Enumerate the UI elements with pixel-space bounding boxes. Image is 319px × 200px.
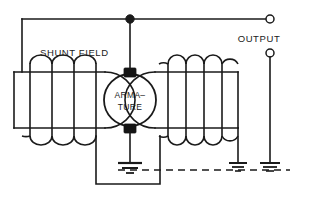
output-terminal-bottom[interactable] bbox=[266, 49, 274, 57]
series-coil-arc-top-0 bbox=[159, 63, 168, 64]
shunt-coil-cradle-arc bbox=[105, 72, 135, 128]
shunt-coil-arc-bottom-0 bbox=[22, 136, 30, 137]
series-coil-arc-top-1 bbox=[168, 55, 186, 64]
armature-circle bbox=[104, 74, 156, 126]
series-coil-arc-bottom-3 bbox=[204, 136, 222, 145]
armature-label-line1: ARMA– bbox=[115, 90, 146, 100]
brush-top bbox=[124, 68, 136, 77]
shunt-coil-arc-bottom-1 bbox=[30, 136, 52, 145]
series-coil-arc-top-4 bbox=[222, 59, 238, 64]
brush-bottom bbox=[124, 124, 136, 133]
series-coil-arc-bottom-4 bbox=[222, 136, 238, 141]
shunt-coil-arc-bottom-2 bbox=[52, 136, 74, 145]
shunt-field-label: SHUNT FIELD bbox=[40, 47, 109, 58]
schematic-canvas: SHUNT FIELD OUTPUT ARMA– TURE bbox=[0, 0, 319, 200]
ground-symbol-armature bbox=[118, 163, 142, 173]
field-return-loop-wire bbox=[96, 136, 160, 184]
series-coil-arc-bottom-2 bbox=[186, 136, 204, 145]
armature-label-line2: TURE bbox=[118, 102, 142, 112]
schematic-diagram: SHUNT FIELD OUTPUT ARMA– TURE bbox=[0, 0, 319, 200]
series-coil-arc-top-2 bbox=[186, 55, 204, 64]
top-bus-junction-dot bbox=[126, 15, 134, 23]
output-label: OUTPUT bbox=[238, 33, 281, 44]
output-terminal-top[interactable] bbox=[266, 15, 274, 23]
series-coil-cradle-arc bbox=[125, 72, 155, 128]
shunt-coil-arc-bottom-3 bbox=[74, 136, 96, 145]
series-coil-arc-top-3 bbox=[204, 55, 222, 64]
series-coil-arc-bottom-1 bbox=[168, 136, 186, 145]
